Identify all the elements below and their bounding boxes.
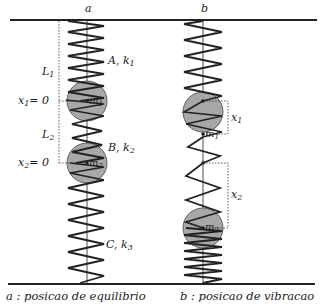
column-b: b x1 x2 m1 m2 (183, 2, 242, 284)
label-m1-b: m1 (205, 128, 219, 141)
spring-c (68, 180, 104, 283)
label-spring-c: C, k3 (106, 238, 133, 252)
label-x1: x1 (231, 111, 242, 125)
label-L1: L1 (41, 65, 54, 79)
label-x2-zero: x2= 0 (18, 156, 49, 170)
two-mass-spring-diagram: a A, k1 B, k2 C, k3 L1 L2 x1= 0 x2= 0 m1… (0, 0, 322, 304)
label-spring-a: A, k1 (107, 54, 135, 68)
caption-a: a : posicao de equilibrio (6, 289, 146, 303)
label-b: b (201, 2, 208, 15)
caption-b: b : posicao de vibracao (180, 289, 314, 303)
column-a: a A, k1 B, k2 C, k3 L1 L2 x1= 0 x2= 0 m1… (18, 2, 135, 284)
label-spring-b: B, k2 (107, 141, 135, 155)
label-x2: x2 (231, 188, 242, 202)
label-x1-zero: x1= 0 (18, 94, 49, 108)
label-a: a (85, 2, 92, 15)
label-L2: L2 (41, 128, 54, 142)
